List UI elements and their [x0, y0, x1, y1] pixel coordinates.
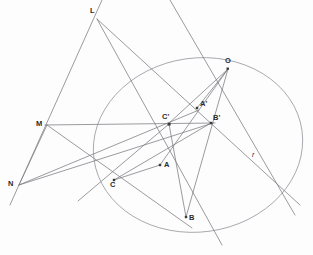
- line-label-r: r: [252, 151, 255, 158]
- line-C-to-Bprime: [114, 123, 211, 180]
- line-Cprime-to-C-extended: [78, 124, 169, 201]
- conic-ellipse: [82, 44, 313, 246]
- point-label-B-prime: B': [213, 114, 221, 122]
- point-label-A-prime: A': [200, 100, 208, 108]
- point-label-B: B: [189, 214, 195, 222]
- point-dot-B-prime: [210, 122, 212, 124]
- point-dot-C-prime: [168, 123, 171, 126]
- point-dot-O: [227, 68, 229, 70]
- geometry-canvas: [0, 0, 313, 255]
- line-L-Bprime-extended: [97, 19, 300, 205]
- point-label-N: N: [8, 180, 14, 188]
- line-O-to-B: [186, 69, 228, 217]
- point-dot-B: [185, 216, 187, 218]
- line-Cprime-to-B: [169, 124, 186, 217]
- line-N-to-M: [19, 125, 47, 185]
- point-label-C-prime: C': [162, 113, 170, 121]
- point-label-O: O: [225, 57, 231, 65]
- conic-ellipse-group: [82, 44, 313, 246]
- point-label-C: C: [110, 181, 116, 189]
- line-C-to-A: [114, 165, 160, 180]
- point-dot-A: [159, 164, 161, 166]
- point-dot-A-prime: [196, 107, 198, 109]
- construction-lines-group: [10, 0, 300, 245]
- point-label-A: A: [164, 161, 170, 169]
- point-label-L: L: [90, 7, 95, 15]
- geometry-figure: L M N O A B C A' B' C' r: [0, 0, 313, 255]
- line-r-through-O: [170, 0, 295, 215]
- point-label-M: M: [36, 120, 42, 128]
